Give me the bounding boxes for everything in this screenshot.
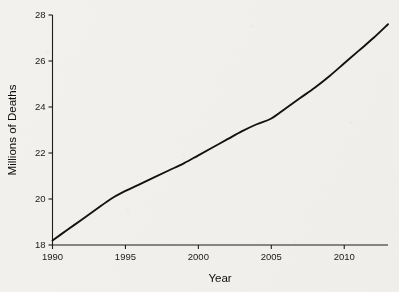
data-series-group	[53, 24, 389, 240]
y-tick-label: 24	[35, 101, 46, 112]
x-tick-label: 1990	[42, 251, 63, 262]
x-axis: 19901995200020052010	[42, 245, 388, 262]
y-axis-title: Millions of Deaths	[6, 84, 18, 175]
y-tick-label: 28	[35, 9, 46, 20]
x-axis-title: Year	[208, 272, 231, 284]
x-tick-label: 1995	[115, 251, 136, 262]
x-tick-label: 2000	[188, 251, 209, 262]
line-chart-figure: 182022242628 19901995200020052010 Millio…	[0, 0, 399, 292]
y-axis: 182022242628	[35, 9, 53, 250]
y-tick-label: 20	[35, 193, 46, 204]
chart-canvas: 182022242628 19901995200020052010 Millio…	[0, 0, 399, 292]
x-tick-label: 2010	[334, 251, 355, 262]
data-line-global-deaths	[53, 24, 389, 240]
y-tick-label: 26	[35, 55, 46, 66]
y-tick-label: 22	[35, 147, 46, 158]
y-tick-label: 18	[35, 239, 46, 250]
x-tick-label: 2005	[261, 251, 282, 262]
